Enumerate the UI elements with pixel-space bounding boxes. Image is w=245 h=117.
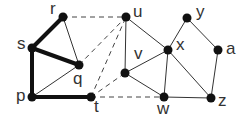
- edge-u-x: [126, 17, 168, 50]
- edge-u-v: [125, 17, 126, 73]
- node-r: [59, 13, 68, 22]
- node-label-y: y: [196, 3, 205, 20]
- node-label-p: p: [16, 87, 25, 104]
- node-label-a: a: [226, 40, 235, 57]
- edge-r-s: [32, 17, 63, 48]
- edge-y-a: [187, 18, 218, 50]
- edge-w-z: [164, 97, 211, 98]
- edge-v-x: [125, 50, 168, 73]
- node-label-x: x: [176, 36, 185, 53]
- edge-s-q: [32, 48, 79, 65]
- node-p: [28, 93, 37, 102]
- node-y: [183, 14, 192, 23]
- graph-canvas: [0, 0, 245, 117]
- edge-r-q: [63, 17, 79, 65]
- node-v: [121, 69, 130, 78]
- edge-p-q: [32, 65, 79, 97]
- node-x: [164, 46, 173, 55]
- node-label-r: r: [50, 0, 56, 17]
- node-label-z: z: [218, 92, 227, 109]
- node-s: [28, 44, 37, 53]
- edge-v-w: [125, 73, 164, 97]
- node-label-t: t: [94, 98, 99, 115]
- node-label-q: q: [73, 70, 82, 87]
- node-a: [214, 46, 223, 55]
- edge-a-z: [211, 50, 218, 98]
- edges-group: [32, 17, 218, 98]
- edge-x-z: [168, 50, 211, 98]
- edge-x-w: [164, 50, 168, 97]
- node-label-s: s: [17, 35, 26, 52]
- node-z: [207, 94, 216, 103]
- node-label-w: w: [157, 100, 169, 117]
- node-label-v: v: [134, 45, 143, 62]
- edge-q-u: [79, 17, 126, 65]
- node-u: [122, 13, 131, 22]
- node-label-u: u: [133, 3, 142, 20]
